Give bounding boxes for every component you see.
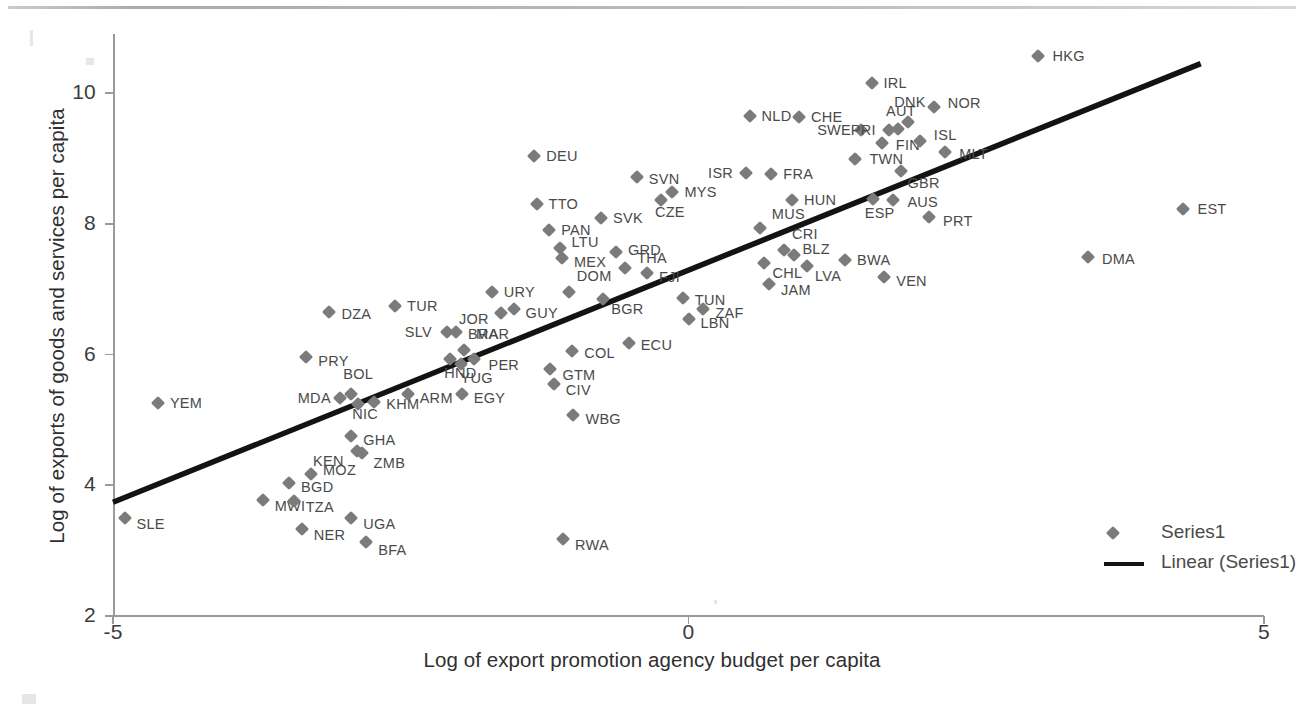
data-point-label: URY: [504, 285, 535, 300]
data-point-label: KEN: [313, 454, 344, 469]
data-point-marker: [282, 476, 296, 490]
data-point-label: AUS: [907, 195, 938, 210]
scan-speck: [714, 600, 717, 604]
data-point-label: CRI: [792, 227, 818, 242]
data-point-marker: [455, 387, 469, 401]
scan-speck: [30, 30, 33, 46]
data-point-label: IRL: [884, 76, 907, 91]
data-point-marker: [344, 428, 358, 442]
data-point-marker: [609, 245, 623, 259]
data-point-label: ECU: [641, 338, 673, 353]
scan-artifact-line: [8, 6, 1296, 9]
data-point-marker: [494, 306, 508, 320]
data-point-label: THA: [637, 251, 667, 266]
data-point-label: MYS: [684, 185, 716, 200]
chart-figure: 108642-505 SLEYEMMWIPRYDZABGDTZANERMOZMD…: [0, 0, 1304, 719]
y-axis-tick: [105, 354, 113, 356]
data-point-label: SVK: [613, 211, 643, 226]
data-point-marker: [622, 336, 636, 350]
data-point-marker: [757, 256, 771, 270]
data-point-label: LTU: [572, 235, 599, 250]
data-point-label: MLT: [959, 147, 988, 162]
data-point-label: BWA: [857, 253, 890, 268]
data-point-marker: [938, 145, 952, 159]
data-point-marker: [922, 209, 936, 223]
data-point-label: TZA: [306, 500, 334, 515]
data-point-label: ISL: [934, 128, 957, 143]
data-point-label: DEU: [546, 149, 578, 164]
legend-label: Series1: [1161, 521, 1225, 543]
data-point-label: HKG: [1052, 49, 1084, 64]
scan-speck: [22, 694, 36, 704]
data-point-marker: [543, 362, 557, 376]
x-axis-tick-label: -5: [83, 620, 143, 644]
y-axis-title: Log of exports of goods and services per…: [45, 26, 69, 626]
data-point-label: TUR: [407, 299, 438, 314]
data-point-marker: [117, 511, 131, 525]
data-point-label: PRI: [851, 123, 876, 138]
data-point-label: ZAF: [715, 306, 743, 321]
data-point-label: EST: [1197, 202, 1226, 217]
data-point-label: JOR: [459, 312, 489, 327]
data-point-label: DNK: [894, 95, 926, 110]
y-axis-tick: [105, 92, 113, 94]
data-point-marker: [457, 343, 471, 357]
data-point-marker: [295, 522, 309, 536]
data-point-label: DZA: [341, 307, 371, 322]
data-point-marker: [764, 167, 778, 181]
data-point-marker: [467, 352, 481, 366]
scan-speck: [86, 58, 94, 65]
x-axis-title: Log of export promotion agency budget pe…: [0, 648, 1304, 672]
data-point-marker: [596, 292, 610, 306]
data-point-marker: [547, 377, 561, 391]
data-point-marker: [151, 396, 165, 410]
data-point-marker: [753, 221, 767, 235]
data-point-label: ARM: [420, 391, 453, 406]
x-axis-tick-label: 0: [659, 620, 719, 644]
data-point-marker: [640, 266, 654, 280]
data-point-marker: [256, 493, 270, 507]
data-point-label: BFA: [378, 543, 406, 558]
data-point-label: VEN: [896, 274, 927, 289]
data-point-marker: [1031, 49, 1045, 63]
data-point-label: MDA: [298, 391, 331, 406]
data-point-marker: [838, 253, 852, 267]
data-point-marker: [866, 192, 880, 206]
data-point-label: COL: [584, 346, 615, 361]
data-point-marker: [566, 408, 580, 422]
diamond-marker-icon: [1106, 526, 1120, 540]
data-point-label: TWN: [869, 152, 903, 167]
data-point-label: DMA: [1102, 252, 1135, 267]
data-point-label: MUS: [772, 207, 805, 222]
data-point-marker: [529, 197, 543, 211]
data-point-label: EGY: [474, 391, 506, 406]
y-axis-tick: [105, 223, 113, 225]
data-point-marker: [485, 285, 499, 299]
data-point-marker: [618, 260, 632, 274]
data-point-marker: [594, 211, 608, 225]
data-point-label: FJI: [659, 270, 680, 285]
data-point-label: RWA: [575, 538, 609, 553]
data-point-label: YEM: [170, 396, 202, 411]
data-point-label: NER: [314, 528, 346, 543]
data-point-label: PER: [488, 358, 519, 373]
x-axis-tick-label: 5: [1234, 620, 1294, 644]
data-point-marker: [556, 532, 570, 546]
data-point-marker: [1176, 202, 1190, 216]
data-point-marker: [299, 350, 313, 364]
data-point-label: UGA: [363, 517, 395, 532]
data-point-marker: [877, 270, 891, 284]
data-point-label: HUN: [804, 193, 836, 208]
data-point-label: TTO: [549, 197, 579, 212]
data-point-label: FRA: [783, 167, 813, 182]
data-point-marker: [527, 149, 541, 163]
legend-label: Linear (Series1): [1161, 551, 1296, 573]
data-point-marker: [742, 109, 756, 123]
trendline: [0, 0, 1304, 719]
data-point-label: PRT: [943, 214, 973, 229]
data-point-label: GBR: [907, 176, 939, 191]
data-point-label: DOM: [577, 269, 612, 284]
data-point-marker: [875, 136, 889, 150]
y-axis-tick: [105, 484, 113, 486]
data-point-marker: [681, 311, 695, 325]
